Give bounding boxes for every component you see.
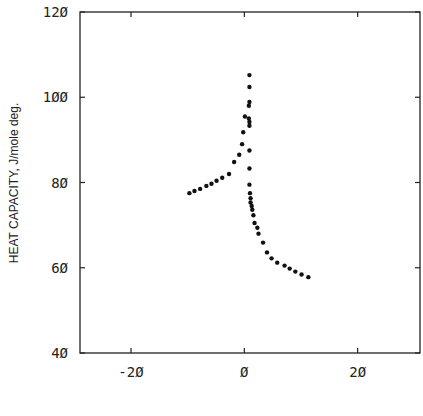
data-point — [247, 100, 251, 104]
data-point — [214, 179, 218, 183]
data-point — [247, 85, 251, 89]
x-tick-label: Ø — [240, 364, 249, 380]
data-point — [269, 256, 273, 260]
y-tick-label: 6Ø — [51, 260, 68, 276]
data-point — [243, 114, 247, 118]
data-point — [293, 269, 297, 273]
data-point — [247, 166, 251, 170]
data-point — [198, 187, 202, 191]
y-tick-label: 1ØØ — [43, 89, 69, 105]
data-point — [247, 148, 251, 152]
data-point — [250, 204, 254, 208]
data-point — [255, 225, 259, 229]
data-point — [299, 272, 303, 276]
data-point — [287, 266, 291, 270]
data-point — [187, 191, 191, 195]
data-point — [248, 196, 252, 200]
data-point — [248, 191, 252, 195]
data-point — [251, 213, 255, 217]
data-point — [209, 182, 213, 186]
data-point — [282, 263, 286, 267]
data-point — [247, 120, 251, 124]
data-points — [187, 73, 310, 279]
data-point — [227, 172, 231, 176]
data-point — [247, 124, 251, 128]
data-point — [247, 182, 251, 186]
data-point — [237, 153, 241, 157]
scatter-chart: -2ØØ2Ø 4Ø6Ø8Ø1ØØ12Ø — [0, 0, 423, 416]
y-axis-ticks: 4Ø6Ø8Ø1ØØ12Ø — [43, 4, 420, 361]
data-point — [232, 160, 236, 164]
data-point — [247, 73, 251, 77]
y-tick-label: 8Ø — [51, 175, 68, 191]
data-point — [240, 142, 244, 146]
data-point — [256, 231, 260, 235]
data-point — [247, 104, 251, 108]
data-point — [275, 260, 279, 264]
data-point — [250, 208, 254, 212]
data-point — [261, 240, 265, 244]
x-tick-label: 2Ø — [349, 364, 366, 380]
data-point — [265, 250, 269, 254]
data-point — [204, 184, 208, 188]
data-point — [252, 221, 256, 225]
x-tick-label: -2Ø — [118, 364, 144, 380]
y-tick-label: 4Ø — [51, 345, 68, 361]
data-point — [241, 130, 245, 134]
data-point — [306, 275, 310, 279]
data-point — [192, 189, 196, 193]
plot-frame — [80, 12, 420, 353]
y-tick-label: 12Ø — [43, 4, 69, 20]
x-axis-ticks: -2ØØ2Ø — [118, 12, 366, 380]
y-axis-label: HEAT CAPACITY, J/mole deg. — [7, 103, 21, 264]
data-point — [220, 176, 224, 180]
